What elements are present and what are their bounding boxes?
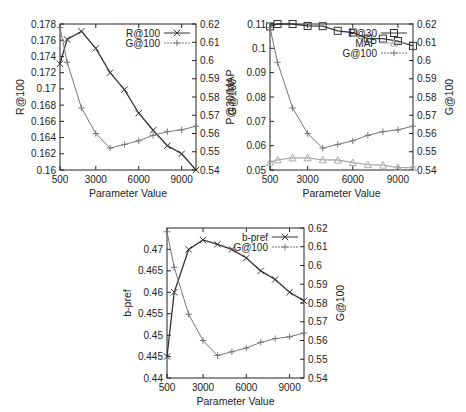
chart2: 0.050.060.070.080.090.10.110.540.550.560… [224, 19, 455, 200]
series-r-100 [57, 28, 199, 173]
y2-tick-label: 0.61 [200, 37, 220, 48]
x-tick-label: 500 [52, 174, 69, 185]
legend: P@30MAPG@100 [342, 28, 407, 59]
series-map [267, 154, 417, 170]
data-point-marker [57, 24, 63, 30]
legend-label: G@100 [125, 38, 160, 49]
y2-tick-label: 0.59 [308, 279, 328, 290]
y2-tick-label: 0.62 [417, 19, 437, 30]
data-point-marker [243, 255, 249, 261]
x-axis-label: Parameter Value [89, 187, 167, 199]
data-point-marker [121, 87, 127, 93]
y-axis-label: R@100 [14, 79, 26, 115]
data-point-marker [395, 127, 401, 133]
y2-tick-label: 0.58 [417, 92, 437, 103]
data-point-marker [178, 151, 184, 157]
data-point-marker [289, 105, 295, 111]
data-point-marker [185, 311, 191, 317]
data-point-marker [136, 110, 142, 116]
legend: b-prefG@100 [233, 232, 298, 253]
y2-tick-label: 0.62 [200, 19, 220, 30]
y2-tick-label: 0.55 [417, 146, 437, 157]
y-tick-label: 0.174 [31, 51, 56, 62]
y-axis-label: P@30/MAP [224, 69, 236, 124]
x-tick-label: 500 [159, 382, 176, 393]
y-tick-label: 0.164 [31, 132, 56, 143]
data-point-marker [229, 349, 235, 355]
series-p-30 [267, 21, 417, 50]
y-tick-label: 0.08 [247, 92, 267, 103]
x-tick-label: 9000 [387, 174, 410, 185]
data-point-marker [258, 268, 264, 274]
x-tick-label: 6000 [128, 174, 151, 185]
x-tick-label: 3000 [85, 174, 108, 185]
legend-label: G@100 [233, 242, 268, 253]
y-tick-label: 0.07 [247, 116, 267, 127]
y-tick-label: 0.176 [31, 35, 56, 46]
y2-tick-label: 0.56 [308, 335, 328, 346]
data-point-marker [272, 276, 278, 282]
y2-tick-label: 0.6 [200, 55, 214, 66]
data-point-marker [178, 127, 184, 133]
chart1: 0.160.1620.1640.1660.1680.170.1720.1740.… [14, 19, 238, 200]
data-point-marker [164, 142, 170, 148]
y-tick-label: 0.46 [144, 287, 164, 298]
legend-marker [391, 50, 397, 56]
data-point-marker [274, 59, 280, 65]
x-tick-label: 3000 [297, 174, 320, 185]
legend-label: G@100 [342, 48, 377, 59]
y-tick-label: 0.166 [31, 116, 56, 127]
data-point-marker [286, 289, 292, 295]
y-tick-label: 0.47 [144, 244, 164, 255]
y2-tick-label: 0.6 [308, 260, 322, 271]
y-tick-label: 0.1 [252, 43, 266, 54]
y2-tick-label: 0.61 [417, 37, 437, 48]
x-tick-label: 9000 [171, 174, 194, 185]
x-tick-label: 500 [262, 174, 279, 185]
y2-tick-label: 0.54 [417, 165, 437, 176]
data-point-marker [380, 128, 386, 134]
data-point-marker [365, 132, 371, 138]
y2-tick-label: 0.62 [308, 223, 328, 234]
y2-axis-label: G@100 [443, 79, 455, 116]
figure-canvas: 0.160.1620.1640.1660.1680.170.1720.1740.… [0, 0, 466, 412]
legend: R@100G@100 [125, 28, 190, 49]
y-tick-label: 0.178 [31, 19, 56, 30]
data-point-marker [272, 335, 278, 341]
x-tick-label: 9000 [278, 382, 301, 393]
legend-marker [174, 40, 180, 46]
data-point-marker [350, 138, 356, 144]
y-tick-label: 0.06 [247, 140, 267, 151]
y-tick-label: 0.17 [37, 83, 57, 94]
y2-tick-label: 0.54 [200, 165, 220, 176]
data-point-marker [107, 69, 113, 75]
y-tick-label: 0.09 [247, 67, 267, 78]
x-tick-label: 3000 [192, 382, 215, 393]
y-tick-label: 0.11 [247, 19, 266, 30]
y2-tick-label: 0.56 [200, 128, 220, 139]
y2-tick-label: 0.58 [200, 92, 220, 103]
data-point-marker [258, 339, 264, 345]
y-tick-label: 0.45 [144, 330, 164, 341]
y-tick-label: 0.168 [31, 100, 56, 111]
y-tick-label: 0.445 [138, 351, 163, 362]
x-axis-label: Parameter Value [196, 395, 274, 407]
y2-tick-label: 0.54 [308, 373, 328, 384]
y2-tick-label: 0.61 [308, 241, 328, 252]
data-point-marker [93, 45, 99, 51]
data-point-marker [121, 141, 127, 147]
y2-tick-label: 0.6 [417, 55, 431, 66]
data-point-marker [185, 246, 191, 252]
data-point-marker [136, 138, 142, 144]
y2-tick-label: 0.58 [308, 298, 328, 309]
data-point-marker [410, 123, 416, 129]
series-b-pref [164, 237, 307, 360]
data-point-marker [286, 334, 292, 340]
y2-tick-label: 0.56 [417, 128, 437, 139]
data-point-marker [301, 330, 307, 336]
y-tick-label: 0.172 [31, 67, 56, 78]
data-point-marker [78, 28, 84, 34]
y2-axis-label: G@100 [334, 285, 346, 322]
x-axis-label: Parameter Value [302, 187, 380, 199]
x-tick-label: 6000 [342, 174, 365, 185]
